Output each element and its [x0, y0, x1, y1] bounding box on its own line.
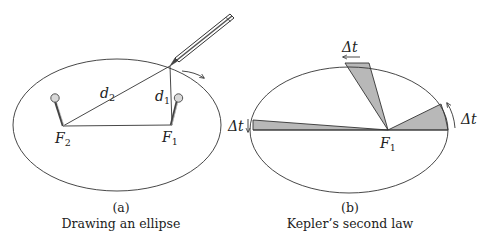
kepler-ellipse-figure: d2 d1 F2 F1 (a) Drawing an ellipse Δt Δt…: [0, 0, 488, 239]
pin-f2: [51, 94, 64, 126]
pencil-icon: [170, 14, 234, 66]
pin-head-icon: [174, 94, 182, 102]
panel-b-caption: Kepler’s second law: [287, 216, 414, 231]
label-delta-t-right: Δt: [460, 111, 477, 127]
label-d2: d2: [100, 85, 115, 103]
label-f1: F1: [161, 129, 178, 147]
label-d1: d1: [155, 88, 170, 106]
arrow-right-icon: [447, 103, 455, 128]
label-f1-b: F1: [379, 135, 396, 153]
sector-right: [388, 104, 448, 130]
panel-a-label: (a): [112, 200, 129, 215]
pin-f1: [171, 94, 183, 125]
label-delta-t-top: Δt: [341, 39, 358, 55]
sector-left: [253, 120, 388, 130]
panel-b-label: (b): [341, 200, 359, 215]
panel-a-caption: Drawing an ellipse: [62, 216, 181, 231]
label-delta-t-left: Δt: [227, 118, 244, 134]
panel-b-keplers-second-law: Δt Δt Δt F1 (b) Kepler’s second law: [227, 39, 477, 231]
label-f2: F2: [54, 130, 71, 148]
motion-arrow-icon: [182, 71, 204, 78]
sector-top: [345, 63, 388, 130]
pin-head-icon: [51, 94, 59, 102]
panel-a-drawing-ellipse: d2 d1 F2 F1 (a) Drawing an ellipse: [13, 14, 234, 231]
ellipse-a: [13, 59, 221, 191]
